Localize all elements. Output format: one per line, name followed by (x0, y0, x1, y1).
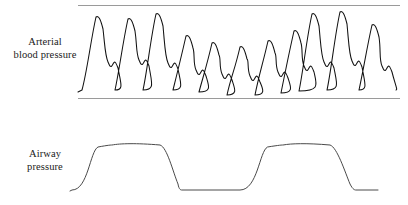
waveform-canvas (0, 0, 408, 205)
waveform-figure: Arterial blood pressure Airway pressure (0, 0, 408, 205)
airway-panel (70, 144, 378, 191)
abp-panel (78, 5, 400, 98)
airway-pressure-trace (70, 144, 378, 191)
arterial-blood-pressure-trace (78, 12, 397, 95)
